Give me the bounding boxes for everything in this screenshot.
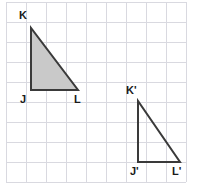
triangle-jkl-prime bbox=[138, 101, 180, 162]
triangle-jkl bbox=[31, 28, 78, 90]
vertex-label-l: L bbox=[74, 94, 81, 105]
figure-canvas bbox=[0, 0, 197, 195]
vertex-label-j: J bbox=[20, 94, 26, 105]
vertex-label-k-prime: K' bbox=[126, 85, 137, 96]
grid-lines bbox=[6, 2, 187, 183]
vertex-label-l-prime: L' bbox=[172, 166, 181, 177]
vertex-label-j-prime: J' bbox=[130, 166, 139, 177]
vertex-label-k: K bbox=[19, 10, 27, 21]
geometry-figure: K J L K' J' L' bbox=[0, 0, 197, 195]
